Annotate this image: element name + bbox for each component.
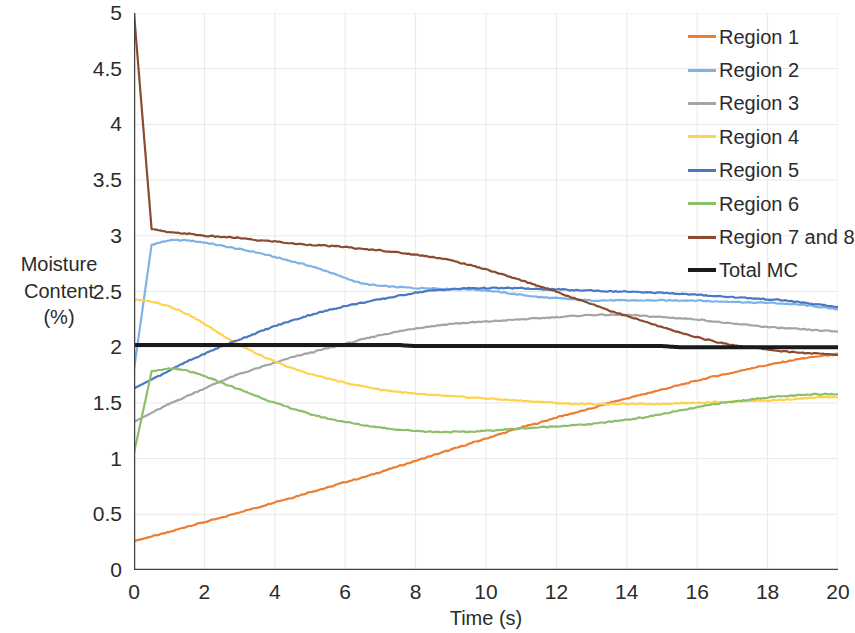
legend-item-total-mc[interactable]: Total MC (688, 254, 854, 287)
legend-color-swatch (688, 169, 716, 172)
chart-screenshot: 00.511.522.533.544.55 Moisture Content (… (0, 0, 855, 633)
x-tick-label: 20 (826, 581, 849, 602)
x-axis-tick-labels: 02468101214161820 (0, 581, 855, 609)
legend-color-swatch (688, 35, 716, 38)
legend-item-label: Region 6 (719, 194, 799, 214)
chart-legend: Region 1Region 2Region 3Region 4Region 5… (688, 16, 854, 287)
y-tick-label: 3.5 (46, 169, 122, 190)
y-axis-title-line-3: (%) (0, 304, 118, 331)
legend-color-swatch (688, 202, 716, 205)
legend-item-region-5[interactable]: Region 5 (688, 154, 854, 187)
y-tick-label: 4.5 (46, 58, 122, 79)
x-tick-label: 14 (615, 581, 638, 602)
legend-color-swatch (688, 236, 716, 239)
x-tick-label: 4 (269, 581, 281, 602)
x-tick-label: 0 (128, 581, 140, 602)
x-tick-label: 2 (199, 581, 211, 602)
x-tick-label: 18 (756, 581, 779, 602)
legend-item-label: Region 5 (719, 160, 799, 180)
legend-color-swatch (688, 102, 716, 105)
series-line-total-mc (134, 345, 838, 347)
legend-item-label: Region 1 (719, 27, 799, 47)
legend-item-region-1[interactable]: Region 1 (688, 20, 854, 53)
legend-item-label: Total MC (719, 260, 798, 280)
legend-item-region-7-and-8[interactable]: Region 7 and 8 (688, 220, 854, 253)
y-axis-title-line-2: Content (0, 278, 118, 305)
legend-color-swatch (688, 268, 716, 272)
x-tick-label: 6 (339, 581, 351, 602)
legend-item-region-3[interactable]: Region 3 (688, 87, 854, 120)
legend-item-label: Region 4 (719, 127, 799, 147)
y-tick-label: 2 (46, 336, 122, 357)
legend-color-swatch (688, 135, 716, 138)
y-tick-label: 0.5 (46, 503, 122, 524)
y-tick-label: 4 (46, 113, 122, 134)
legend-item-label: Region 2 (719, 60, 799, 80)
x-tick-label: 10 (474, 581, 497, 602)
legend-item-region-6[interactable]: Region 6 (688, 187, 854, 220)
x-tick-label: 16 (686, 581, 709, 602)
legend-item-region-2[interactable]: Region 2 (688, 53, 854, 86)
y-axis-title-line-1: Moisture (0, 251, 118, 278)
y-tick-label: 1.5 (46, 392, 122, 413)
x-tick-label: 8 (410, 581, 422, 602)
y-axis-title: Moisture Content (%) (0, 251, 118, 331)
x-axis-title: Time (s) (134, 608, 838, 628)
y-tick-label: 5 (46, 2, 122, 23)
y-tick-label: 0 (46, 559, 122, 580)
legend-color-swatch (688, 69, 716, 72)
legend-item-region-4[interactable]: Region 4 (688, 120, 854, 153)
y-tick-label: 3 (46, 225, 122, 246)
legend-item-label: Region 7 and 8 (719, 227, 855, 247)
legend-item-label: Region 3 (719, 93, 799, 113)
x-tick-label: 12 (545, 581, 568, 602)
y-tick-label: 1 (46, 448, 122, 469)
